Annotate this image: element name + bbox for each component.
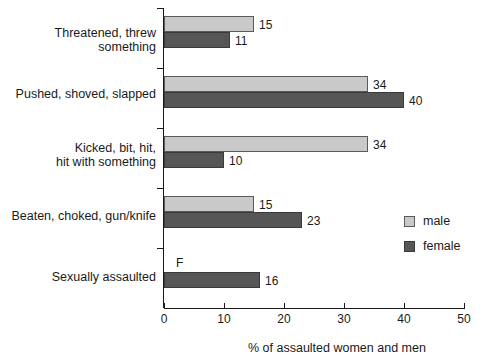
- bar-value-female-pushed: 40: [409, 94, 422, 108]
- x-axis-title: % of assaulted women and men: [248, 341, 426, 355]
- x-axis-tick: [464, 303, 465, 309]
- category-label-kicked: Kicked, bit, hit, hit with something: [56, 141, 156, 169]
- bar-value-female-kicked: 10: [229, 154, 242, 168]
- bar-value-male-threatened: 15: [259, 18, 272, 32]
- bar-female-threatened: [164, 32, 230, 48]
- bar-value-male-pushed: 34: [373, 78, 386, 92]
- bar-female-beaten: [164, 212, 302, 228]
- bar-male-beaten: [164, 196, 254, 212]
- category-label-threatened: Threatened, threw something: [0, 26, 156, 54]
- bar-value-male-beaten: 15: [259, 198, 272, 212]
- x-axis-tick: [164, 303, 165, 309]
- bar-male-threatened: [164, 16, 254, 32]
- category-label-beaten: Beaten, choked, gun/knife: [11, 209, 156, 223]
- bar-chart: Threatened, threw something Pushed, shov…: [0, 0, 490, 364]
- category-label-pushed: Pushed, shoved, slapped: [16, 87, 156, 101]
- bar-value-female-threatened: 11: [235, 34, 247, 48]
- legend-swatch-male-icon: [404, 216, 415, 227]
- bar-female-pushed: [164, 92, 404, 108]
- legend-label-male: male: [423, 214, 450, 228]
- legend-swatch-female-icon: [404, 241, 415, 252]
- x-axis-line: [164, 308, 465, 309]
- legend-label-female: female: [423, 239, 461, 253]
- y-axis-tick: [157, 128, 164, 129]
- bar-male-pushed: [164, 76, 368, 92]
- bar-male-kicked: [164, 136, 368, 152]
- y-axis-tick: [157, 188, 164, 189]
- x-axis-tick: [344, 303, 345, 309]
- x-tick-label-40: 40: [397, 312, 410, 326]
- bar-value-female-beaten: 23: [307, 214, 320, 228]
- x-tick-label-50: 50: [457, 312, 470, 326]
- y-axis-tick: [157, 8, 164, 9]
- legend-item-female: female: [404, 239, 461, 253]
- x-axis-tick: [224, 303, 225, 309]
- category-label-sexually: Sexually assaulted: [52, 270, 156, 284]
- suppressed-value-male-sexually: F: [176, 256, 183, 270]
- bar-value-male-kicked: 34: [373, 138, 386, 152]
- x-tick-label-30: 30: [337, 312, 350, 326]
- bar-value-female-sexually: 16: [265, 274, 278, 288]
- legend-item-male: male: [404, 214, 461, 228]
- x-tick-label-0: 0: [161, 312, 168, 326]
- y-axis-tick: [157, 68, 164, 69]
- x-tick-label-20: 20: [277, 312, 290, 326]
- x-axis-tick: [404, 303, 405, 309]
- bar-female-sexually: [164, 272, 260, 288]
- legend: male female: [404, 214, 461, 264]
- x-axis-tick: [284, 303, 285, 309]
- y-axis-tick: [157, 248, 164, 249]
- bar-female-kicked: [164, 152, 224, 168]
- x-tick-label-10: 10: [217, 312, 230, 326]
